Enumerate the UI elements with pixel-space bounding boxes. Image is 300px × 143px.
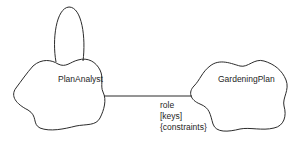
association-keys: [keys] bbox=[160, 111, 182, 121]
self-association-loop bbox=[55, 7, 84, 62]
plananalyst-class-cloud bbox=[14, 59, 105, 130]
plananalyst-class-name: PlanAnalyst bbox=[58, 74, 104, 84]
association-role: role bbox=[160, 100, 174, 110]
gardeningplan-class-name: GardeningPlan bbox=[218, 74, 275, 84]
gardeningplan-class-cloud bbox=[191, 60, 288, 131]
class-diagram: PlanAnalyst GardeningPlan role [keys] {c… bbox=[0, 0, 300, 143]
association-constraints: {constraints} bbox=[160, 122, 207, 132]
